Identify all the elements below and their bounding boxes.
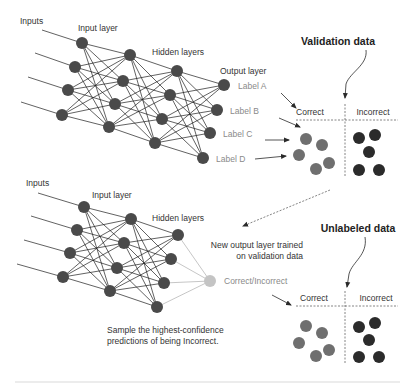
neuron-node — [104, 285, 116, 297]
neuron-node — [56, 109, 68, 121]
new-output-node — [204, 275, 216, 287]
validation-data-title: Validation data — [301, 35, 375, 47]
neuron-node — [118, 237, 130, 249]
neuron-node — [165, 253, 177, 265]
correct-sample-dot — [323, 344, 335, 356]
neuron-node — [62, 84, 74, 96]
neuron-node — [57, 271, 69, 283]
neuron-node — [69, 61, 81, 73]
neuron-node — [64, 247, 76, 259]
new-output-connection — [171, 259, 210, 281]
label-b: Label B — [230, 106, 259, 116]
incorrect-sample-dot — [353, 321, 365, 333]
top-input-layer-label: Input layer — [78, 23, 118, 33]
neuron-node — [171, 65, 183, 77]
unlabeled-incorrect-label: Incorrect — [359, 293, 393, 303]
connection — [82, 43, 130, 55]
correct-sample-dot — [300, 133, 312, 145]
top-inputs-label: Inputs — [20, 16, 43, 26]
correct-incorrect-output-label: Correct/Incorrect — [224, 276, 288, 286]
arrow-icon — [281, 93, 296, 108]
unlabeled-dots — [293, 317, 385, 363]
incorrect-sample-dot — [363, 334, 375, 346]
incorrect-sample-dot — [369, 317, 381, 329]
output-node — [197, 152, 209, 164]
correct-sample-dot — [316, 139, 328, 151]
curved-arrow-icon — [345, 50, 366, 98]
neuron-node — [124, 49, 136, 61]
input-line — [24, 240, 70, 253]
bottom-hidden-layers-label: Hidden layers — [152, 213, 204, 223]
neuron-node — [103, 121, 115, 133]
transfer-note-line2: on validation data — [236, 251, 303, 261]
correct-sample-dot — [300, 320, 312, 332]
neuron-node — [76, 37, 88, 49]
unlabeled-data-title: Unlabeled data — [321, 222, 396, 234]
input-line — [21, 102, 62, 115]
connection — [155, 133, 210, 143]
output-node — [211, 104, 223, 116]
correct-sample-dot — [310, 163, 322, 175]
correct-sample-dot — [293, 337, 305, 349]
neuron-node — [149, 137, 161, 149]
neuron-node — [125, 213, 137, 225]
label-arrows — [255, 93, 300, 159]
output-node — [204, 127, 216, 139]
label-a: Label A — [238, 81, 267, 91]
connection — [123, 71, 177, 81]
unlabeled-correct-label: Correct — [300, 293, 329, 303]
output-node — [218, 79, 230, 91]
validation-correct-label: Correct — [296, 107, 325, 117]
curved-arrow-icon — [347, 237, 365, 287]
top-hidden-layers-label: Hidden layers — [152, 47, 204, 57]
output-layer-label: Output layer — [220, 66, 266, 76]
input-line — [28, 77, 68, 90]
incorrect-sample-dot — [373, 164, 385, 176]
validation-dots — [293, 129, 385, 176]
sample-annotation-line1: Sample the highest-confidence — [107, 325, 224, 335]
active-learning-diagram: Inputs Input layer Hidden layers Output … — [0, 0, 411, 385]
correct-sample-dot — [293, 149, 305, 161]
connection — [75, 55, 130, 67]
incorrect-sample-dot — [353, 132, 365, 144]
neuron-node — [71, 224, 83, 236]
input-line — [35, 53, 75, 67]
connection — [62, 104, 115, 115]
incorrect-sample-dot — [353, 164, 365, 176]
neuron-node — [78, 201, 90, 213]
bottom-inputs-label: Inputs — [26, 178, 49, 188]
correct-sample-dot — [316, 327, 328, 339]
arrow-icon — [255, 156, 286, 159]
input-line — [17, 264, 63, 277]
neuron-node — [151, 301, 163, 313]
neuron-node — [111, 262, 123, 274]
input-line — [38, 193, 84, 207]
connection — [155, 143, 203, 158]
incorrect-sample-dot — [369, 129, 381, 141]
neuron-node — [117, 75, 129, 87]
cropped-caption — [15, 381, 400, 383]
neuron-node — [156, 113, 168, 125]
correct-sample-dot — [310, 350, 322, 362]
label-c: Label C — [223, 129, 252, 139]
connection — [170, 85, 224, 95]
input-line — [31, 216, 77, 230]
incorrect-sample-dot — [373, 351, 385, 363]
connection — [77, 219, 131, 230]
bottom-input-layer-label: Input layer — [92, 190, 132, 200]
input-line — [42, 30, 82, 43]
transfer-arrow-icon — [243, 190, 330, 226]
new-output-connection — [178, 235, 210, 281]
connection — [68, 90, 115, 104]
arrow-icon — [272, 295, 291, 305]
validation-incorrect-label: Incorrect — [356, 107, 390, 117]
transfer-note-line1: New output layer trained — [211, 240, 303, 250]
new-output-connection — [164, 281, 210, 283]
label-d: Label D — [216, 154, 245, 164]
incorrect-sample-dot — [363, 146, 375, 158]
connection — [115, 104, 155, 143]
incorrect-sample-dot — [353, 351, 365, 363]
arrow-icon — [279, 118, 300, 127]
neuron-node — [109, 98, 121, 110]
neuron-node — [158, 277, 170, 289]
